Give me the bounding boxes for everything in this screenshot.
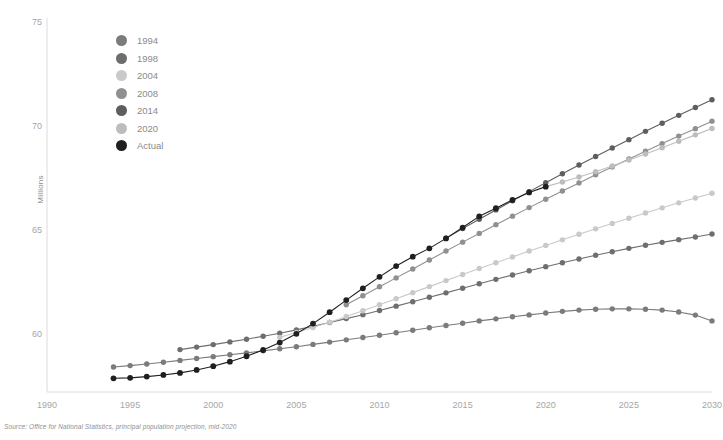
data-point	[460, 286, 465, 291]
x-axis-tick-label: 2030	[702, 400, 722, 410]
data-point	[626, 216, 631, 221]
data-point	[626, 137, 631, 142]
data-point	[576, 162, 581, 167]
data-point	[410, 290, 415, 295]
data-point	[393, 303, 398, 308]
data-point	[510, 213, 515, 218]
data-point	[543, 264, 548, 269]
legend-item-1994[interactable]: 1994	[116, 32, 163, 50]
data-point	[560, 188, 565, 193]
data-point	[327, 309, 333, 315]
data-point	[144, 374, 150, 380]
data-point	[493, 205, 499, 211]
x-axis-tick-label: 1995	[120, 400, 140, 410]
legend-swatch-icon	[116, 123, 127, 134]
data-point	[294, 344, 299, 349]
data-point	[676, 309, 681, 314]
data-point	[227, 339, 232, 344]
data-point	[593, 307, 598, 312]
data-point	[443, 323, 448, 328]
legend-item-2020[interactable]: 2020	[116, 120, 163, 138]
data-point	[277, 340, 283, 346]
data-point	[610, 249, 615, 254]
data-point	[676, 139, 681, 144]
data-point	[560, 237, 565, 242]
data-point	[377, 274, 383, 280]
data-point	[310, 321, 316, 327]
data-point	[493, 222, 498, 227]
data-point	[676, 133, 681, 138]
data-point	[377, 308, 382, 313]
legend-swatch-icon	[116, 105, 127, 116]
legend-item-label: 2008	[137, 88, 158, 99]
data-point	[693, 105, 698, 110]
legend-item-label: 2014	[137, 105, 158, 116]
data-point	[510, 197, 516, 203]
data-point	[676, 237, 681, 242]
data-point	[560, 171, 565, 176]
legend-item-label: 1998	[137, 53, 158, 64]
data-point	[177, 370, 183, 376]
data-point	[576, 307, 581, 312]
data-point	[477, 281, 482, 286]
data-point	[643, 210, 648, 215]
data-point	[111, 364, 116, 369]
x-axis-tick-label: 1990	[37, 400, 57, 410]
data-point	[593, 169, 598, 174]
data-point	[427, 325, 432, 330]
data-point	[443, 278, 448, 283]
data-point	[344, 337, 349, 342]
data-point	[477, 266, 482, 271]
data-point	[626, 306, 631, 311]
legend-swatch-icon	[116, 140, 127, 151]
data-point	[476, 213, 482, 219]
chart-legend: 199419982004200820142020Actual	[116, 32, 163, 155]
data-point	[493, 260, 498, 265]
data-point	[177, 358, 182, 363]
data-point	[493, 316, 498, 321]
legend-item-actual[interactable]: Actual	[116, 137, 163, 155]
series-2020	[543, 126, 715, 190]
series-line	[114, 309, 713, 367]
data-point	[360, 293, 365, 298]
data-point	[460, 272, 465, 277]
data-point	[327, 339, 332, 344]
x-axis-tick-label: 2005	[286, 400, 306, 410]
data-point	[260, 347, 266, 353]
data-point	[177, 347, 182, 352]
data-point	[526, 190, 532, 196]
series-1994	[111, 306, 715, 370]
series-line	[346, 121, 712, 305]
legend-item-2004[interactable]: 2004	[116, 67, 163, 85]
data-point	[576, 256, 581, 261]
x-axis-tick-label: 2020	[536, 400, 556, 410]
data-point	[709, 191, 714, 196]
data-point	[593, 253, 598, 258]
data-point	[244, 353, 250, 359]
source-note: Source: Office for National Statistics, …	[4, 423, 236, 430]
legend-item-1998[interactable]: 1998	[116, 50, 163, 68]
data-point	[543, 310, 548, 315]
legend-item-2014[interactable]: 2014	[116, 102, 163, 120]
data-point	[709, 231, 714, 236]
data-point	[709, 126, 714, 131]
series-line	[446, 100, 712, 238]
data-point	[393, 263, 399, 269]
x-axis-tick-label: 2015	[453, 400, 473, 410]
data-point	[144, 361, 149, 366]
data-point	[560, 179, 565, 184]
data-point	[510, 314, 515, 319]
data-point	[560, 260, 565, 265]
data-point	[410, 328, 415, 333]
data-point	[360, 335, 365, 340]
data-point	[510, 254, 515, 259]
data-point	[643, 129, 648, 134]
data-point	[210, 363, 216, 369]
data-point	[377, 284, 382, 289]
data-point	[277, 346, 282, 351]
data-point	[610, 145, 615, 150]
data-point	[626, 246, 631, 251]
data-point	[643, 243, 648, 248]
legend-item-2008[interactable]: 2008	[116, 85, 163, 103]
data-point	[127, 363, 132, 368]
